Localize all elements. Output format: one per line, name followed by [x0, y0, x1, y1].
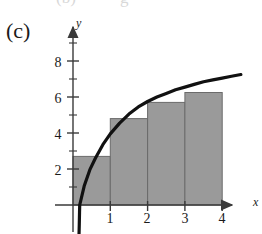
riemann-rectangle	[148, 102, 185, 205]
riemann-rectangles	[73, 93, 222, 206]
riemann-rectangle	[185, 93, 222, 206]
riemann-rectangle	[110, 119, 147, 205]
riemann-sum-figure	[0, 0, 262, 234]
